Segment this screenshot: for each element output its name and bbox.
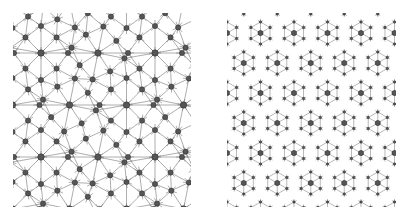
right-network-diagram	[227, 13, 396, 207]
left-network-panel	[13, 13, 191, 207]
left-network-diagram	[13, 13, 191, 207]
right-network-panel	[227, 13, 396, 207]
